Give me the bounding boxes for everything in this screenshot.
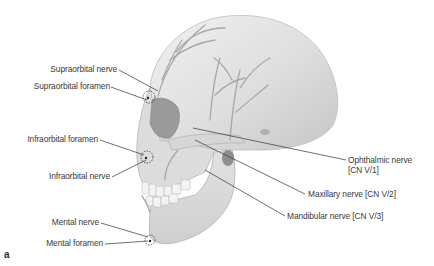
label-ophthalmic-nerve-cn: [CN V/1] bbox=[348, 165, 379, 175]
label-mental-foramen: Mental foramen bbox=[0, 238, 103, 248]
label-ophthalmic-nerve: Ophthalmic nerve bbox=[348, 155, 412, 165]
orbit bbox=[150, 98, 180, 138]
panel-letter: a bbox=[4, 249, 10, 260]
label-maxillary-nerve: Maxillary nerve [CN V/2] bbox=[308, 189, 396, 199]
skull-diagram: Supraorbital nerve Supraorbital foramen … bbox=[0, 0, 434, 266]
label-mental-nerve: Mental nerve bbox=[0, 217, 99, 227]
label-infraorbital-foramen: Infraorbital foramen bbox=[0, 134, 98, 144]
label-mandibular-nerve: Mandibular nerve [CN V/3] bbox=[287, 211, 383, 221]
label-supraorbital-nerve: Supraorbital nerve bbox=[0, 64, 117, 74]
label-infraorbital-nerve: Infraorbital nerve bbox=[0, 171, 110, 181]
label-supraorbital-foramen: Supraorbital foramen bbox=[0, 81, 110, 91]
